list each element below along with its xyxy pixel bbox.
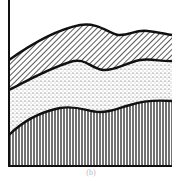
figure-caption: (b) <box>0 168 182 177</box>
stratigraphy-diagram <box>0 0 182 181</box>
